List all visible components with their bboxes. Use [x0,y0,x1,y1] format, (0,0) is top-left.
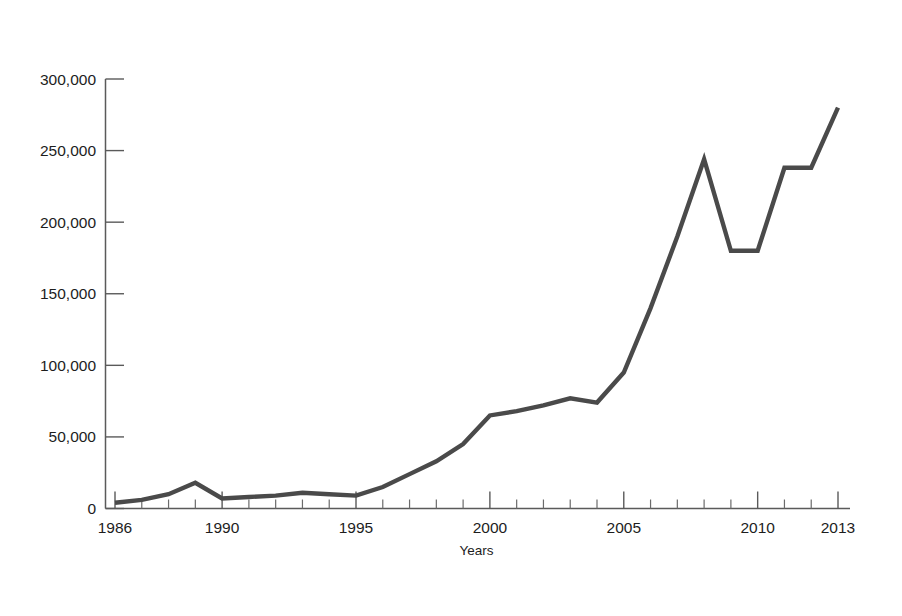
x-axis-group: 1986199019952000200520102013 [98,492,855,536]
y-tick-label: 200,000 [40,214,96,231]
y-tick-marks [106,79,125,509]
x-tick-label: 1990 [205,519,240,536]
y-tick-label: 50,000 [49,428,97,445]
x-axis-title: Years [459,543,493,558]
y-axis-group: 050,000100,000150,000200,000250,000300,0… [40,71,124,518]
data-series-line [115,108,838,503]
x-tick-label: 1995 [339,519,373,536]
y-tick-label: 0 [87,500,96,517]
y-tick-label: 150,000 [40,285,96,302]
x-tick-label: 1986 [98,519,132,536]
x-tick-label: 2013 [821,519,855,536]
x-tick-label: 2000 [473,519,508,536]
x-tick-label: 2005 [607,519,641,536]
y-tick-labels: 050,000100,000150,000200,000250,000300,0… [40,71,96,518]
x-tick-label: 2010 [740,519,775,536]
y-tick-label: 250,000 [40,142,96,159]
y-tick-label: 100,000 [40,357,96,374]
y-tick-label: 300,000 [40,71,96,88]
figure-container: 050,000100,000150,000200,000250,000300,0… [0,0,902,616]
x-tick-labels: 1986199019952000200520102013 [98,519,855,536]
line-chart: 050,000100,000150,000200,000250,000300,0… [0,0,902,616]
